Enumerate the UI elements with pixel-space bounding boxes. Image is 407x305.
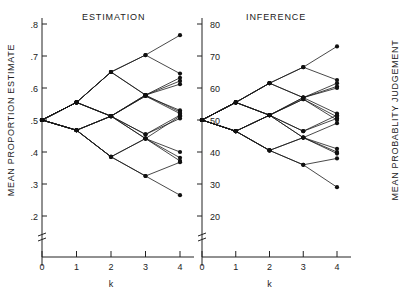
series-line: [42, 96, 180, 130]
series-line: [202, 120, 337, 187]
y-tick-label: .3: [30, 180, 38, 190]
data-point: [74, 100, 78, 104]
series-line: [42, 72, 180, 120]
data-point: [143, 94, 147, 98]
data-point: [301, 136, 305, 140]
x-tick-label: 3: [143, 262, 148, 272]
y-axis-title: MEAN PROBABLITY JUDGEMENT: [390, 40, 400, 201]
axes-layer: [38, 18, 351, 266]
x-tick-label: 0: [199, 262, 204, 272]
data-point: [335, 185, 339, 189]
data-point: [178, 160, 182, 164]
data-point: [143, 53, 147, 57]
series-layer-inference: [200, 44, 339, 189]
series-line: [42, 120, 180, 158]
data-point: [74, 128, 78, 132]
series-layer-estimation: [40, 33, 182, 197]
y-tick-label: 30: [210, 180, 220, 190]
data-point: [40, 118, 44, 122]
x-axis-title: k: [267, 279, 272, 289]
data-point: [143, 136, 147, 140]
y-tick-label: 50: [210, 116, 220, 126]
y-tick-label: .2: [30, 212, 38, 222]
data-point: [109, 70, 113, 74]
series-line: [42, 96, 180, 130]
data-point: [109, 155, 113, 159]
x-tick-label: 1: [233, 262, 238, 272]
data-point: [178, 72, 182, 76]
series-line: [42, 55, 180, 120]
data-point: [178, 193, 182, 197]
data-point: [234, 100, 238, 104]
data-point: [335, 86, 339, 90]
data-point: [301, 163, 305, 167]
data-point: [178, 33, 182, 37]
y-tick-label: 60: [210, 84, 220, 94]
data-point: [267, 113, 271, 117]
data-point: [301, 129, 305, 133]
y-tick-label: .6: [30, 84, 38, 94]
y-tick-label: 20: [210, 212, 220, 222]
data-point: [335, 152, 339, 156]
data-point: [178, 82, 182, 86]
data-point: [335, 44, 339, 48]
x-axis-title: k: [109, 279, 114, 289]
y-tick-label: .4: [30, 148, 38, 158]
data-point: [178, 150, 182, 154]
y-tick-label: 80: [210, 20, 220, 30]
figure: ESTIMATION INFERENCE .2.3.4.5.6.7.801234…: [0, 0, 407, 305]
data-point: [335, 156, 339, 160]
x-tick-label: 2: [267, 262, 272, 272]
labels-layer: .2.3.4.5.6.7.801234kMEAN PROPORTION ESTI…: [6, 20, 400, 290]
y-tick-label: 70: [210, 52, 220, 62]
data-point: [335, 121, 339, 125]
y-axis-title: MEAN PROPORTION ESTIMATE: [6, 44, 16, 196]
data-point: [109, 114, 113, 118]
x-tick-label: 3: [301, 262, 306, 272]
x-tick-label: 2: [108, 262, 113, 272]
x-tick-label: 4: [334, 262, 339, 272]
data-point: [301, 65, 305, 69]
series-line: [42, 116, 180, 138]
data-point: [143, 132, 147, 136]
y-tick-label: .7: [30, 52, 38, 62]
y-tick-label: 40: [210, 148, 220, 158]
data-point: [143, 174, 147, 178]
x-tick-label: 1: [74, 262, 79, 272]
x-tick-label: 0: [39, 262, 44, 272]
data-point: [267, 81, 271, 85]
series-line: [42, 35, 180, 120]
x-tick-label: 4: [177, 262, 182, 272]
y-tick-label: .5: [30, 116, 38, 126]
data-point: [301, 97, 305, 101]
chart-canvas: .2.3.4.5.6.7.801234kMEAN PROPORTION ESTI…: [0, 0, 407, 305]
y-tick-label: .8: [30, 20, 38, 30]
data-point: [234, 129, 238, 133]
data-point: [178, 114, 182, 118]
series-line: [42, 72, 180, 120]
data-point: [267, 148, 271, 152]
data-point: [200, 118, 204, 122]
